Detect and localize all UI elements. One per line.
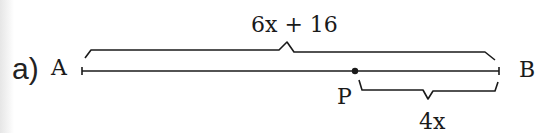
brace-pb-bottom <box>359 80 498 99</box>
segment-diagram <box>0 0 555 133</box>
point-p-dot <box>352 68 358 74</box>
brace-ab-top <box>85 42 495 60</box>
